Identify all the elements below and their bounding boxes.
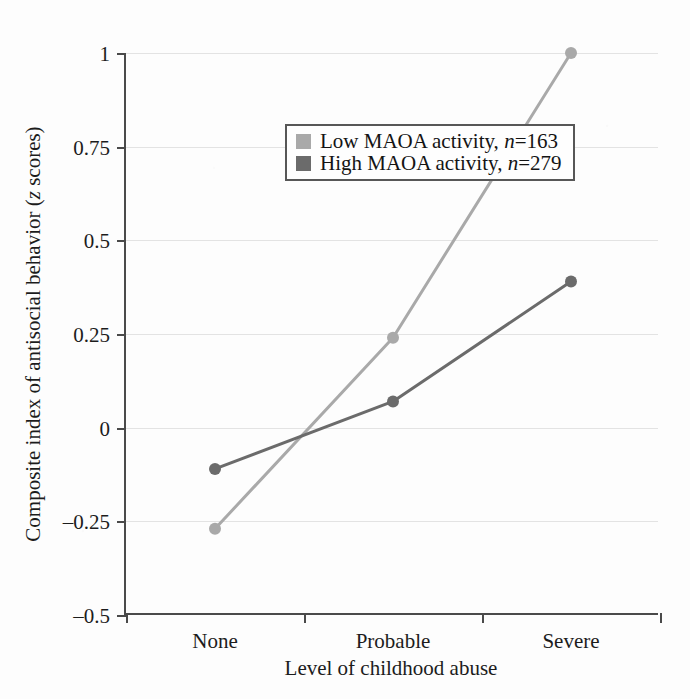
legend-color-swatch (296, 156, 311, 171)
legend-item-label: High MAOA activity, n=279 (320, 152, 561, 174)
legend-item: High MAOA activity, n=279 (296, 152, 561, 174)
legend-item: Low MAOA activity, n=163 (296, 130, 561, 152)
x-axis-category-label: None (126, 629, 304, 653)
legend-italic-n: n (508, 151, 519, 175)
y-axis-tick: –0.25 (117, 521, 126, 523)
y-axis-tick-label: –0.5 (73, 605, 110, 627)
legend-italic-n: n (504, 129, 515, 153)
series-high-maoa (209, 276, 577, 475)
data-point (387, 332, 399, 344)
series-line (215, 282, 571, 469)
y-axis-tick: 0.25 (117, 334, 126, 336)
x-axis-title-text: Level of childhood abuse (285, 656, 498, 680)
legend-item-label: Low MAOA activity, n=163 (320, 130, 558, 152)
plot-area: 10.750.50.250–0.25–0.5 NoneProbableSever… (124, 53, 658, 615)
y-axis-tick-label: 0.5 (84, 230, 110, 252)
data-point (209, 523, 221, 535)
figure-chart-maoa-antisocial-behavior: Composite index of antisocial behavior (… (0, 0, 690, 699)
data-point (565, 47, 577, 59)
y-axis-tick: 1 (117, 53, 126, 55)
y-axis-tick: 0.75 (117, 147, 126, 149)
legend: Low MAOA activity, n=163High MAOA activi… (285, 124, 575, 181)
y-axis-tick: 0.5 (117, 240, 126, 242)
x-axis-tick (660, 613, 662, 623)
y-axis-tick: 0 (117, 428, 126, 430)
y-axis-tick-label: –0.25 (63, 511, 110, 533)
data-point (209, 463, 221, 475)
y-axis-tick-label: 1 (100, 43, 111, 65)
y-axis-tick-label: 0.25 (73, 324, 110, 346)
series-low-maoa (209, 47, 577, 535)
legend-color-swatch (296, 134, 311, 149)
y-axis-tick-label: 0.75 (73, 137, 110, 159)
x-axis-category-label: Severe (482, 629, 660, 653)
y-axis-tick-label: 0 (100, 418, 111, 440)
data-point (387, 395, 399, 407)
y-axis-title-text: Composite index of antisocial behavior (… (21, 126, 45, 541)
y-axis-tick: –0.5 (117, 615, 126, 617)
x-axis-title: Level of childhood abuse (124, 656, 658, 680)
x-axis-category-label: Probable (304, 629, 482, 653)
data-point (565, 276, 577, 288)
y-axis-title-italic-z: z (21, 191, 45, 199)
y-axis-title: Composite index of antisocial behavior (… (18, 53, 48, 615)
